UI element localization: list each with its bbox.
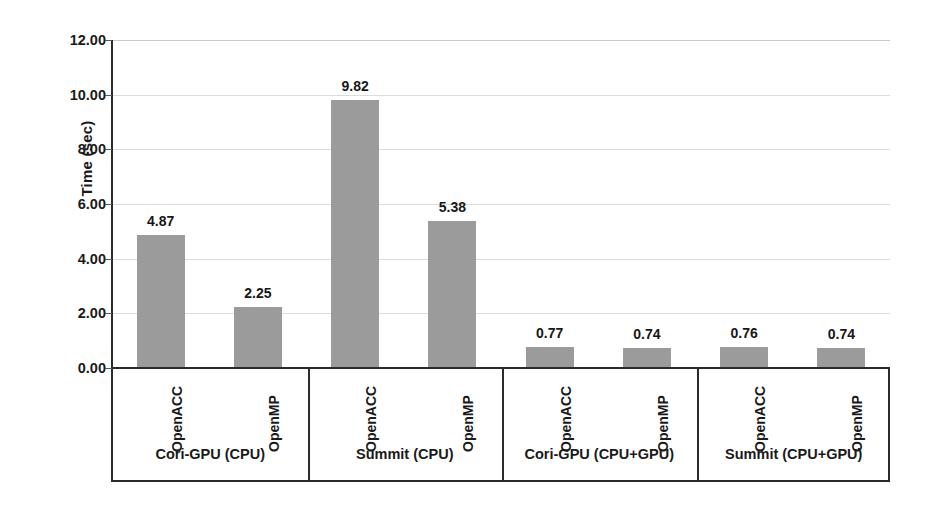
- y-axis-tick-mark: [105, 149, 112, 150]
- y-axis-tick-label: 4.00: [30, 251, 106, 267]
- y-axis-tick-mark: [105, 95, 112, 96]
- gridline: [112, 313, 890, 314]
- group-label: Summit (CPU+GPU): [725, 446, 862, 462]
- bar-value-label: 0.76: [731, 325, 758, 341]
- series-label-openacc: OpenACC: [169, 386, 185, 452]
- series-label-openmp: OpenMP: [460, 395, 476, 452]
- bar-value-label: 0.74: [828, 326, 855, 342]
- series-label-openacc: OpenACC: [363, 386, 379, 452]
- y-axis-tick-label: 0.00: [30, 360, 106, 376]
- bar-value-label: 9.82: [342, 78, 369, 94]
- bar: [817, 348, 865, 368]
- bar-value-label: 2.25: [244, 285, 271, 301]
- series-label-openacc: OpenACC: [752, 386, 768, 452]
- series-label-openmp: OpenMP: [655, 395, 671, 452]
- y-axis-tick-mark: [105, 40, 112, 41]
- y-axis-tick-label: 8.00: [30, 141, 106, 157]
- y-axis-tick-mark: [105, 313, 112, 314]
- bar: [331, 100, 379, 368]
- bar: [623, 348, 671, 368]
- y-axis-tick-label: 6.00: [30, 196, 106, 212]
- bar-value-label: 5.38: [439, 199, 466, 215]
- bar-chart: Time (sec) 0.002.004.006.008.0010.0012.0…: [0, 0, 925, 506]
- series-label-openmp: OpenMP: [849, 395, 865, 452]
- bar: [526, 347, 574, 368]
- gridline: [112, 204, 890, 205]
- bar: [137, 235, 185, 368]
- y-axis-tick-mark: [105, 368, 112, 369]
- plot-area: 4.872.259.825.380.770.740.760.74: [112, 40, 890, 368]
- y-axis-tick-mark: [105, 259, 112, 260]
- bar: [428, 221, 476, 368]
- bar-value-label: 0.74: [633, 326, 660, 342]
- bar: [234, 307, 282, 369]
- gridline: [112, 259, 890, 260]
- gridline: [112, 95, 890, 96]
- group-separator: [502, 368, 504, 482]
- group-label: Summit (CPU): [356, 446, 453, 462]
- series-label-openacc: OpenACC: [558, 386, 574, 452]
- group-separator: [308, 368, 310, 482]
- y-axis-tick-mark: [105, 204, 112, 205]
- y-axis-tick-label: 10.00: [30, 87, 106, 103]
- y-axis-tick-label: 2.00: [30, 305, 106, 321]
- group-label: Cori-GPU (CPU+GPU): [525, 446, 674, 462]
- gridline: [112, 40, 890, 41]
- bar-value-label: 4.87: [147, 213, 174, 229]
- y-axis-tick-label: 12.00: [30, 32, 106, 48]
- category-label-band: OpenACCOpenMPOpenACCOpenMPOpenACCOpenMPO…: [111, 368, 890, 482]
- bar-value-label: 0.77: [536, 325, 563, 341]
- bar: [720, 347, 768, 368]
- group-separator: [697, 368, 699, 482]
- gridline: [112, 149, 890, 150]
- series-label-openmp: OpenMP: [266, 395, 282, 452]
- group-label: Cori-GPU (CPU): [155, 446, 265, 462]
- y-axis-tick-labels: 0.002.004.006.008.0010.0012.00: [30, 0, 106, 506]
